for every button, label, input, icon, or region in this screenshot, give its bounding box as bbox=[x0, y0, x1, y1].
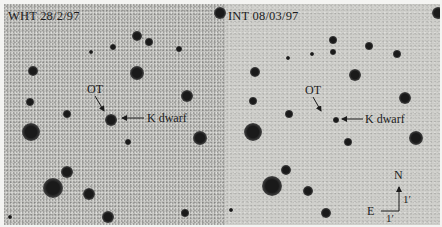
annotation-arrows bbox=[4, 4, 226, 225]
annotation-arrows bbox=[226, 4, 440, 225]
ot-arrow-icon bbox=[313, 97, 321, 111]
panel-wht: WHT 28/2/97 OT K dwarf bbox=[4, 4, 226, 225]
compass-east-label: E bbox=[367, 205, 374, 217]
panel-int: INT 08/03/97 OT K dwarf N E 1′ 1′ bbox=[226, 4, 440, 225]
kdwarf-label: K dwarf bbox=[147, 112, 187, 124]
scale-horizontal-label: 1′ bbox=[386, 213, 394, 224]
ot-arrow-icon bbox=[95, 96, 104, 111]
finding-chart-figure: WHT 28/2/97 OT K dwarf INT 08/03/97 OT bbox=[0, 0, 442, 227]
compass-north-label: N bbox=[394, 169, 403, 181]
scale-vertical-label: 1′ bbox=[403, 194, 411, 205]
kdwarf-label: K dwarf bbox=[365, 113, 405, 125]
